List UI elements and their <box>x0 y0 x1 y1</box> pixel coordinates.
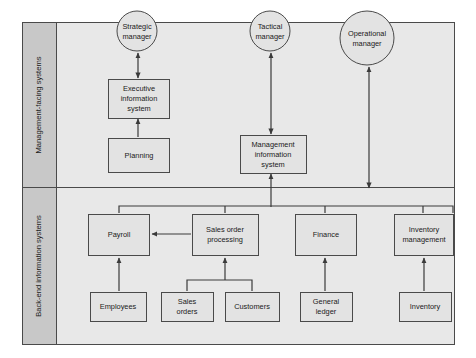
actor-operational-manager[interactable]: Operational manager <box>340 11 394 65</box>
node-management-information-system-label-line1: Management <box>251 140 294 149</box>
node-general-ledger[interactable]: General ledger <box>301 293 353 322</box>
node-sales-order-processing-label-line1: Sales order <box>206 225 244 234</box>
actor-strategic-manager-label-line1: Strategic <box>122 22 151 31</box>
node-customers-label: Customers <box>234 302 270 311</box>
node-general-ledger-label-line1: General <box>313 297 340 306</box>
band-label-back-end: Back-end information systems <box>34 215 43 317</box>
node-inventory[interactable]: Inventory <box>400 293 452 322</box>
node-finance-label: Finance <box>313 230 339 239</box>
node-executive-information-system-label-line2: information <box>121 94 158 103</box>
node-payroll-label: Payroll <box>108 230 131 239</box>
systems-architecture-diagram: Management-facing systems Back-end infor… <box>0 0 476 358</box>
node-sales-orders-label-line2: orders <box>177 307 198 316</box>
node-executive-information-system-label-line1: Executive <box>123 84 155 93</box>
actor-tactical-manager-label-line2: manager <box>255 32 285 41</box>
actor-operational-manager-label-line2: manager <box>352 39 382 48</box>
diagram-canvas: Management-facing systems Back-end infor… <box>0 0 476 358</box>
node-executive-information-system[interactable]: Executive information system <box>109 80 170 119</box>
node-customers[interactable]: Customers <box>226 293 280 322</box>
node-payroll[interactable]: Payroll <box>89 215 150 256</box>
actor-strategic-manager-label-line2: manager <box>122 32 152 41</box>
node-planning[interactable]: Planning <box>109 139 170 173</box>
node-inventory-management-label-line2: management <box>402 235 445 244</box>
actor-tactical-manager-label-line1: Tactical <box>258 22 283 31</box>
node-sales-order-processing[interactable]: Sales order processing <box>193 215 259 256</box>
node-sales-orders-label-line1: Sales <box>178 297 197 306</box>
actor-tactical-manager[interactable]: Tactical manager <box>250 11 290 51</box>
node-planning-label: Planning <box>125 151 154 160</box>
node-employees-label: Employees <box>100 302 137 311</box>
node-inventory-management-label-line1: Inventory <box>409 225 440 234</box>
node-employees[interactable]: Employees <box>91 293 147 322</box>
node-management-information-system[interactable]: Management information system <box>241 136 307 174</box>
node-executive-information-system-label-line3: system <box>127 104 150 113</box>
node-inventory-management[interactable]: Inventory management <box>395 215 454 256</box>
actor-strategic-manager[interactable]: Strategic manager <box>117 11 157 51</box>
band-label-management-facing: Management-facing systems <box>34 56 43 153</box>
node-finance[interactable]: Finance <box>296 215 357 256</box>
node-inventory-label: Inventory <box>410 302 441 311</box>
node-general-ledger-label-line2: ledger <box>316 307 337 316</box>
node-sales-order-processing-label-line2: processing <box>207 235 243 244</box>
node-management-information-system-label-line3: system <box>261 160 284 169</box>
actor-operational-manager-label-line1: Operational <box>348 29 387 38</box>
node-management-information-system-label-line2: information <box>255 150 292 159</box>
node-sales-orders[interactable]: Sales orders <box>162 293 214 322</box>
